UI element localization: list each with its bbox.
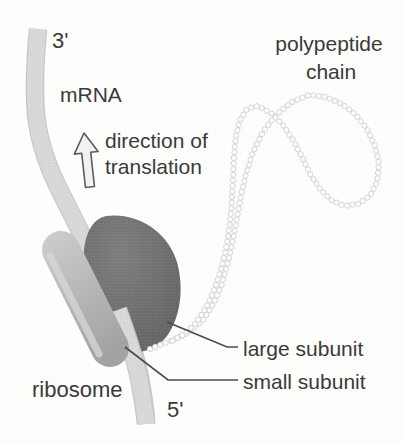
label-polypeptide-line2: chain — [306, 60, 356, 83]
label-direction-line2: translation — [105, 155, 202, 178]
label-direction-line1: direction of — [105, 129, 208, 152]
label-polypeptide-line1: polypeptide — [275, 32, 382, 55]
label-large-subunit: large subunit — [243, 337, 363, 360]
label-ribosome: ribosome — [32, 377, 122, 402]
direction-arrow-icon — [74, 133, 98, 188]
leader-line-large-subunit — [167, 322, 238, 347]
label-small-subunit: small subunit — [243, 370, 366, 393]
label-mrna: mRNA — [60, 83, 122, 106]
label-3-prime: 3' — [52, 28, 68, 53]
label-5-prime: 5' — [167, 397, 183, 422]
diagram-canvas: 3' mRNA direction of translation polypep… — [0, 0, 404, 443]
